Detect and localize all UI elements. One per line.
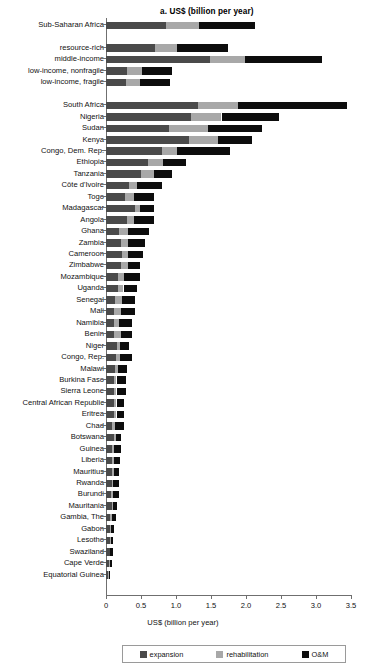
bar-row-label: Tanzania <box>74 169 104 178</box>
stacked-bar <box>106 354 132 362</box>
chart-legend: expansion rehabilitation O&M <box>122 645 346 663</box>
bar-segment-om <box>117 388 126 396</box>
bar-row-label: Central African Republic <box>23 398 104 407</box>
bar-row: middle-income <box>0 54 366 66</box>
bar-row: low-income, nonfragile <box>0 66 366 78</box>
bar-segment-rehabilitation <box>121 239 128 247</box>
bar-segment-expansion <box>106 262 121 270</box>
bar-segment-om <box>120 342 129 350</box>
bar-row-label: low-income, nonfragile <box>28 66 104 75</box>
bar-segment-om <box>122 296 135 304</box>
stacked-bar <box>106 147 230 155</box>
bar-segment-om <box>114 468 120 476</box>
bar-row: Togo <box>0 192 366 204</box>
stacked-bar <box>106 571 110 579</box>
bar-segment-om <box>140 205 154 213</box>
bar-segment-rehabilitation <box>191 113 221 121</box>
x-axis-title: US$ (billion per year) <box>0 618 366 627</box>
bar-row: Angola <box>0 215 366 227</box>
bar-row: Namibia <box>0 318 366 330</box>
bar-row-label: Zimbabwe <box>69 260 104 269</box>
bar-row: Ghana <box>0 226 366 238</box>
bar-segment-expansion <box>106 147 162 155</box>
bar-segment-expansion <box>106 205 135 213</box>
bar-row: Swaziland <box>0 547 366 559</box>
bar-row: Congo, Rep. <box>0 352 366 364</box>
stacked-bar <box>106 113 279 121</box>
bar-segment-rehabilitation <box>198 102 238 110</box>
bar-segment-expansion <box>106 67 127 75</box>
bar-row-spacer <box>0 581 366 593</box>
bar-row: Cameroon <box>0 249 366 261</box>
legend-swatch-om-icon <box>302 651 309 658</box>
bar-row: Malawi <box>0 364 366 376</box>
bar-row: Botswana <box>0 432 366 444</box>
bar-segment-rehabilitation <box>210 56 245 64</box>
legend-swatch-expansion-icon <box>140 651 147 658</box>
stacked-bar <box>106 44 228 52</box>
bar-row: Sudan <box>0 123 366 135</box>
bar-segment-om <box>118 365 127 373</box>
bar-row-label: Rwanda <box>76 478 104 487</box>
bar-segment-expansion <box>106 296 115 304</box>
bar-row: South Africa <box>0 100 366 112</box>
bar-row: Kenya <box>0 135 366 147</box>
bar-row-label: Mauritius <box>73 467 104 476</box>
bar-row: Zambia <box>0 238 366 250</box>
bar-row: Sierra Leone <box>0 386 366 398</box>
bar-row-label: Congo, Dem. Rep. <box>41 146 104 155</box>
bar-segment-om <box>238 102 347 110</box>
bar-segment-om <box>111 525 115 533</box>
bar-row-label: Gambia, The <box>60 512 104 521</box>
bar-segment-expansion <box>106 251 122 259</box>
x-axis-tick-label: 1.0 <box>171 601 182 610</box>
bar-segment-om <box>128 251 143 259</box>
bar-row-label: Burkina Faso <box>59 375 104 384</box>
bar-row-label: Mozambique <box>61 272 104 281</box>
stacked-bar <box>106 159 186 167</box>
bar-segment-om <box>110 560 112 568</box>
stacked-bar <box>106 79 170 87</box>
bar-row-label: Senegal <box>76 295 104 304</box>
bar-segment-expansion <box>106 434 114 442</box>
bar-row: Senegal <box>0 295 366 307</box>
x-axis-tick <box>176 595 177 599</box>
stacked-bar <box>106 125 262 133</box>
bar-row: Gambia, The <box>0 512 366 524</box>
bar-segment-om <box>121 331 132 339</box>
x-axis-tick-label: 2.0 <box>241 601 252 610</box>
bar-row-label: Ethiopia <box>77 157 104 166</box>
bar-segment-rehabilitation <box>125 193 134 201</box>
stacked-bar <box>106 251 143 259</box>
x-axis-tick <box>351 595 352 599</box>
bar-segment-rehabilitation <box>155 44 177 52</box>
bar-segment-expansion <box>106 376 114 384</box>
bar-segment-rehabilitation <box>162 147 177 155</box>
stacked-bar <box>106 296 135 304</box>
bar-segment-expansion <box>106 193 125 201</box>
bar-segment-om <box>177 44 228 52</box>
stacked-bar <box>106 468 119 476</box>
bar-segment-rehabilitation <box>189 136 218 144</box>
bar-segment-expansion <box>106 216 127 224</box>
bar-segment-expansion <box>106 285 118 293</box>
bar-segment-expansion <box>106 159 148 167</box>
bar-segment-expansion <box>106 342 117 350</box>
x-axis-tick-label: 0.5 <box>136 601 147 610</box>
bar-segment-om <box>113 480 119 488</box>
bar-row-label: Equatorial Guinea <box>43 570 104 579</box>
bar-row: Eritrea <box>0 409 366 421</box>
bar-segment-om <box>113 502 117 510</box>
bar-row: Burundi <box>0 489 366 501</box>
bar-row: Mozambique <box>0 272 366 284</box>
bar-row: Guinea <box>0 444 366 456</box>
bar-segment-om <box>119 319 132 327</box>
bar-segment-om <box>142 67 172 75</box>
bar-row-label: middle-income <box>55 54 104 63</box>
bar-segment-expansion <box>106 354 116 362</box>
bar-segment-om <box>124 285 137 293</box>
bar-row: Tanzania <box>0 169 366 181</box>
bar-segment-expansion <box>106 331 114 339</box>
bar-segment-om <box>199 22 255 30</box>
stacked-bar <box>106 102 347 110</box>
